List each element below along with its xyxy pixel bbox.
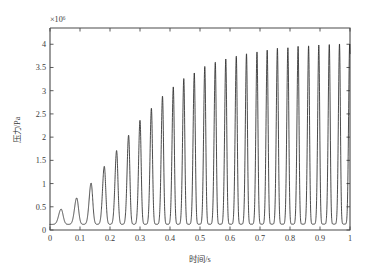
x-tick-label: 0.1 bbox=[75, 234, 85, 243]
y-tick-label: 3 bbox=[42, 87, 46, 96]
axis-ticks-group bbox=[50, 28, 350, 230]
chart-plot-area: 00.511.522.533.54 00.10.20.30.40.50.60.7… bbox=[0, 0, 375, 275]
x-tick-label: 0.6 bbox=[225, 234, 235, 243]
x-tick-label: 0.9 bbox=[315, 234, 325, 243]
x-axis-title: 时间/s bbox=[189, 254, 211, 264]
y-axis-title: 压力/Pa bbox=[12, 116, 22, 143]
chart-figure: 00.511.522.533.54 00.10.20.30.40.50.60.7… bbox=[0, 0, 375, 275]
y-tick-label: 0.5 bbox=[36, 203, 46, 212]
x-tick-label: 0.4 bbox=[165, 234, 175, 243]
x-tick-label: 0.7 bbox=[255, 234, 265, 243]
axis-frame bbox=[50, 28, 350, 230]
x-tick-label: 0.5 bbox=[195, 234, 205, 243]
x-tick-label: 1 bbox=[348, 234, 352, 243]
x-tick-label: 0 bbox=[48, 234, 52, 243]
x-tick-label: 0.3 bbox=[135, 234, 145, 243]
x-tick-label: 0.8 bbox=[285, 234, 295, 243]
x-tick-label: 0.2 bbox=[105, 234, 115, 243]
y-axis-exponent-label: ×10⁶ bbox=[50, 15, 66, 24]
data-series-pressure bbox=[50, 44, 350, 224]
y-tick-label: 2.5 bbox=[36, 110, 46, 119]
y-tick-label: 4 bbox=[42, 40, 46, 49]
y-tick-label: 1.5 bbox=[36, 156, 46, 165]
y-tick-label: 2 bbox=[42, 133, 46, 142]
y-axis-tick-labels: 00.511.522.533.54 bbox=[36, 40, 46, 235]
y-tick-label: 1 bbox=[42, 180, 46, 189]
y-tick-label: 3.5 bbox=[36, 63, 46, 72]
x-axis-tick-labels: 00.10.20.30.40.50.60.70.80.91 bbox=[48, 234, 352, 243]
y-tick-label: 0 bbox=[42, 226, 46, 235]
